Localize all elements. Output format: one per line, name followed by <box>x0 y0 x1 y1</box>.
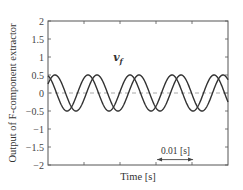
plot-frame <box>48 21 228 165</box>
x-axis-title: Time [s] <box>120 171 156 182</box>
y-tick-label: 0.5 <box>32 70 45 81</box>
y-tick-label: −2 <box>33 160 44 171</box>
y-tick-label: 2 <box>39 16 44 27</box>
y-tick-label: 1 <box>39 52 44 63</box>
time-scale-annotation: 0.01 [s] <box>157 146 193 162</box>
series-label-vf: vf <box>113 51 124 66</box>
chart: 21.510.50−0.5−1−1.5−2 vf 0.01 [s] Time [… <box>0 0 243 190</box>
y-tick-label: −1.5 <box>26 142 44 153</box>
y-tick-label: −1 <box>33 124 44 135</box>
y-tick-label: 1.5 <box>32 34 45 45</box>
y-tick-label: 0 <box>39 88 44 99</box>
y-tick-label: −0.5 <box>26 106 44 117</box>
series-group <box>48 75 228 111</box>
time-scale-label: 0.01 [s] <box>161 146 190 156</box>
y-axis-title: Output of F-component extractor <box>7 23 18 163</box>
series-line-a <box>48 75 228 111</box>
series-line-b <box>48 75 228 111</box>
